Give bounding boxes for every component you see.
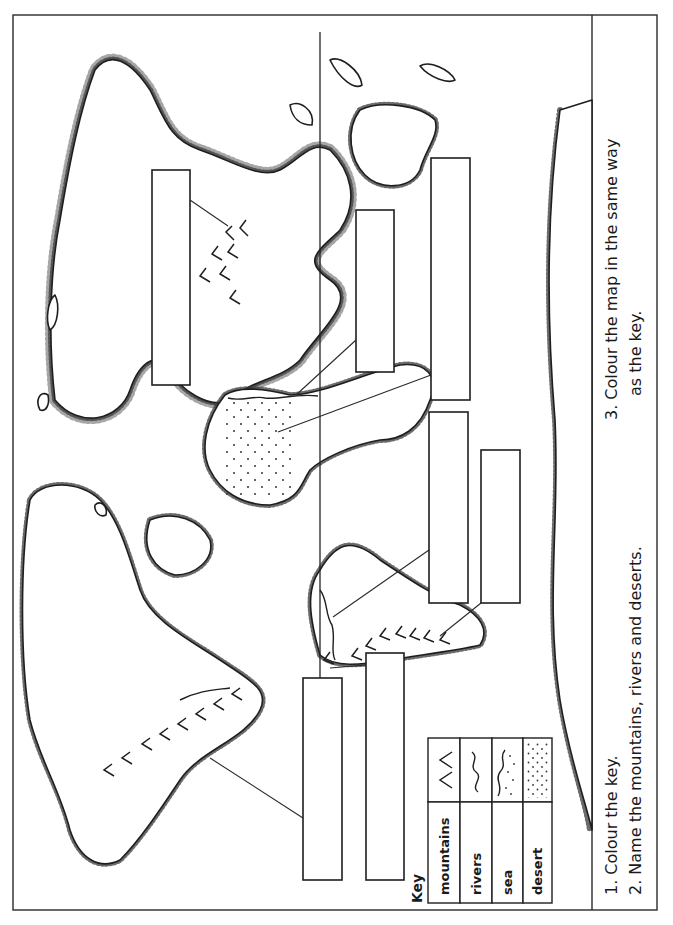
key-title: Key [409, 874, 425, 903]
instruction-1: 1. Colour the key. [602, 755, 621, 895]
worksheet: Key mountains rivers sea desert 1. Colou… [0, 0, 673, 925]
desert-sahara [225, 400, 295, 495]
key-label-mountains: mountains [437, 817, 452, 895]
key-label-rivers: rivers [469, 852, 484, 895]
label-box-3[interactable] [431, 158, 470, 400]
instructions: 1. Colour the key. 2. Name the mountains… [602, 139, 645, 895]
label-box-2[interactable] [356, 210, 394, 372]
label-box-5[interactable] [481, 450, 520, 603]
key-label-sea: sea [500, 870, 515, 895]
label-box-7[interactable] [366, 653, 404, 880]
continent-antarctica [549, 100, 592, 830]
key-label-desert: desert [530, 848, 545, 895]
continent-eurasia [38, 59, 362, 418]
desert-icon [526, 742, 550, 798]
map-key: Key mountains rivers sea desert [409, 738, 552, 903]
instruction-3-line2: as the key. [626, 311, 645, 396]
label-box-1[interactable] [152, 170, 190, 385]
instruction-3-line1: 3. Colour the map in the same way [602, 139, 621, 420]
instruction-2: 2. Name the mountains, rivers and desert… [626, 546, 645, 895]
label-box-6[interactable] [303, 678, 342, 880]
continent-north-america [23, 485, 263, 864]
label-box-4[interactable] [429, 412, 468, 603]
